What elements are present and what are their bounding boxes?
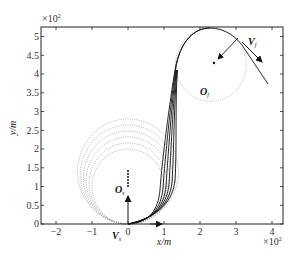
y-multiplier: ×102 xyxy=(42,13,61,24)
svg-text:2: 2 xyxy=(198,226,203,237)
trajectories xyxy=(128,28,268,224)
final-radius-arrow xyxy=(218,38,238,59)
x-axis-label: x/m xyxy=(156,236,171,247)
svg-text:3: 3 xyxy=(234,226,239,237)
svg-text:5: 5 xyxy=(34,31,39,42)
final-center xyxy=(213,62,215,64)
svg-text:−1: −1 xyxy=(87,226,98,237)
final-circle xyxy=(176,28,247,102)
svg-text:4: 4 xyxy=(34,68,39,79)
annotation-v-s: Vs xyxy=(112,230,122,242)
x-multiplier: ×102 xyxy=(263,236,282,247)
svg-text:0.5: 0.5 xyxy=(27,200,40,211)
y-tick-labels: 0 0.5 1 1.5 2 2.5 3 3.5 4 4.5 5 xyxy=(27,31,40,230)
annotation-v-f: Vf xyxy=(248,36,258,48)
svg-text:0: 0 xyxy=(34,218,39,229)
svg-text:3: 3 xyxy=(34,106,39,117)
y-axis-label: y/m xyxy=(7,121,18,136)
annotation-o-s: Os xyxy=(115,184,125,196)
svg-text:−2: −2 xyxy=(51,226,62,237)
svg-text:0: 0 xyxy=(126,226,131,237)
svg-text:1: 1 xyxy=(34,181,39,192)
annotation-o-f: Of xyxy=(200,86,210,98)
svg-text:3.5: 3.5 xyxy=(27,87,40,98)
svg-text:2.5: 2.5 xyxy=(27,125,40,136)
start-centers xyxy=(127,170,129,187)
svg-text:4.5: 4.5 xyxy=(27,50,40,61)
chart: −2 −1 0 1 2 3 4 0 0.5 1 1.5 2 2.5 3 3.5 … xyxy=(0,0,297,260)
svg-text:1.5: 1.5 xyxy=(27,162,40,173)
x-ticks xyxy=(56,27,272,224)
svg-text:2: 2 xyxy=(34,143,39,154)
